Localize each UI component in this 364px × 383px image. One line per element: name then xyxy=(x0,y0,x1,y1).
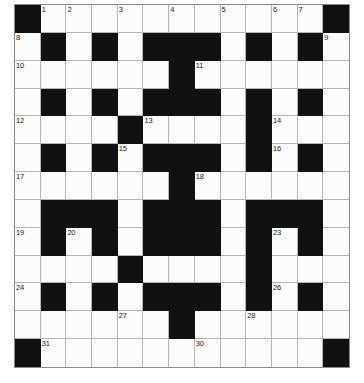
crossword-cell[interactable] xyxy=(92,256,118,284)
crossword-cell[interactable] xyxy=(195,116,221,144)
crossword-cell[interactable] xyxy=(272,33,298,61)
crossword-cell[interactable] xyxy=(169,116,195,144)
crossword-cell[interactable] xyxy=(298,311,324,339)
crossword-cell[interactable]: 16 xyxy=(272,144,298,172)
crossword-cell[interactable]: 18 xyxy=(195,172,221,200)
crossword-cell[interactable]: 3 xyxy=(118,5,144,33)
crossword-cell[interactable] xyxy=(272,61,298,89)
crossword-cell[interactable] xyxy=(221,283,247,311)
crossword-cell[interactable] xyxy=(118,89,144,117)
crossword-cell[interactable]: 11 xyxy=(195,61,221,89)
crossword-cell[interactable] xyxy=(92,311,118,339)
crossword-cell[interactable] xyxy=(66,339,92,367)
crossword-grid[interactable]: 1234567891011121314151617181920232426272… xyxy=(14,4,350,368)
crossword-cell[interactable] xyxy=(118,283,144,311)
crossword-cell[interactable] xyxy=(221,311,247,339)
crossword-cell[interactable] xyxy=(272,172,298,200)
crossword-cell[interactable] xyxy=(66,256,92,284)
crossword-cell[interactable] xyxy=(41,311,67,339)
crossword-cell[interactable]: 14 xyxy=(272,116,298,144)
crossword-cell[interactable] xyxy=(15,144,41,172)
crossword-cell[interactable] xyxy=(298,339,324,367)
crossword-cell[interactable] xyxy=(195,5,221,33)
crossword-cell[interactable] xyxy=(221,116,247,144)
crossword-cell[interactable] xyxy=(143,311,169,339)
crossword-cell[interactable] xyxy=(66,89,92,117)
crossword-cell[interactable] xyxy=(272,89,298,117)
crossword-cell[interactable] xyxy=(272,339,298,367)
crossword-cell[interactable] xyxy=(15,200,41,228)
crossword-cell[interactable] xyxy=(143,172,169,200)
crossword-cell[interactable] xyxy=(92,61,118,89)
crossword-cell[interactable] xyxy=(323,200,349,228)
crossword-cell[interactable] xyxy=(221,256,247,284)
crossword-cell[interactable] xyxy=(195,256,221,284)
crossword-cell[interactable] xyxy=(272,256,298,284)
crossword-cell[interactable]: 23 xyxy=(272,228,298,256)
crossword-cell[interactable]: 8 xyxy=(15,33,41,61)
crossword-cell[interactable] xyxy=(118,228,144,256)
crossword-cell[interactable] xyxy=(298,116,324,144)
crossword-cell[interactable] xyxy=(323,283,349,311)
crossword-cell[interactable] xyxy=(118,33,144,61)
crossword-cell[interactable] xyxy=(118,172,144,200)
crossword-cell[interactable]: 15 xyxy=(118,144,144,172)
crossword-cell[interactable] xyxy=(323,61,349,89)
crossword-cell[interactable]: 20 xyxy=(66,228,92,256)
crossword-cell[interactable]: 13 xyxy=(143,116,169,144)
crossword-cell[interactable] xyxy=(221,61,247,89)
crossword-cell[interactable]: 19 xyxy=(15,228,41,256)
crossword-cell[interactable] xyxy=(41,256,67,284)
crossword-cell[interactable]: 9 xyxy=(323,33,349,61)
crossword-cell[interactable] xyxy=(41,61,67,89)
crossword-cell[interactable]: 6 xyxy=(272,5,298,33)
crossword-cell[interactable] xyxy=(15,311,41,339)
crossword-cell[interactable] xyxy=(118,200,144,228)
crossword-cell[interactable] xyxy=(221,200,247,228)
crossword-cell[interactable] xyxy=(246,61,272,89)
crossword-cell[interactable]: 24 xyxy=(15,283,41,311)
crossword-cell[interactable] xyxy=(298,61,324,89)
crossword-cell[interactable] xyxy=(92,5,118,33)
crossword-cell[interactable] xyxy=(323,256,349,284)
crossword-cell[interactable] xyxy=(66,61,92,89)
crossword-cell[interactable] xyxy=(323,228,349,256)
crossword-cell[interactable] xyxy=(246,5,272,33)
crossword-cell[interactable] xyxy=(92,339,118,367)
crossword-cell[interactable] xyxy=(66,283,92,311)
crossword-cell[interactable] xyxy=(66,144,92,172)
crossword-cell[interactable] xyxy=(246,339,272,367)
crossword-cell[interactable]: 26 xyxy=(272,283,298,311)
crossword-cell[interactable] xyxy=(221,33,247,61)
crossword-cell[interactable] xyxy=(323,144,349,172)
crossword-cell[interactable]: 7 xyxy=(298,5,324,33)
crossword-cell[interactable] xyxy=(323,311,349,339)
crossword-cell[interactable] xyxy=(92,116,118,144)
crossword-cell[interactable] xyxy=(298,172,324,200)
crossword-cell[interactable] xyxy=(41,172,67,200)
crossword-cell[interactable] xyxy=(143,256,169,284)
crossword-cell[interactable] xyxy=(66,311,92,339)
crossword-cell[interactable]: 30 xyxy=(195,339,221,367)
crossword-cell[interactable]: 12 xyxy=(15,116,41,144)
crossword-cell[interactable] xyxy=(143,61,169,89)
crossword-cell[interactable]: 31 xyxy=(41,339,67,367)
crossword-cell[interactable] xyxy=(66,33,92,61)
crossword-cell[interactable] xyxy=(169,339,195,367)
crossword-cell[interactable]: 5 xyxy=(221,5,247,33)
crossword-cell[interactable]: 2 xyxy=(66,5,92,33)
crossword-cell[interactable] xyxy=(15,256,41,284)
crossword-cell[interactable] xyxy=(323,89,349,117)
crossword-cell[interactable] xyxy=(143,339,169,367)
crossword-cell[interactable] xyxy=(246,172,272,200)
crossword-cell[interactable] xyxy=(92,172,118,200)
crossword-cell[interactable] xyxy=(169,256,195,284)
crossword-cell[interactable]: 27 xyxy=(118,311,144,339)
crossword-cell[interactable] xyxy=(143,5,169,33)
crossword-cell[interactable] xyxy=(221,228,247,256)
crossword-cell[interactable] xyxy=(118,61,144,89)
crossword-cell[interactable]: 28 xyxy=(246,311,272,339)
crossword-cell[interactable]: 10 xyxy=(15,61,41,89)
crossword-cell[interactable]: 17 xyxy=(15,172,41,200)
crossword-cell[interactable] xyxy=(221,172,247,200)
